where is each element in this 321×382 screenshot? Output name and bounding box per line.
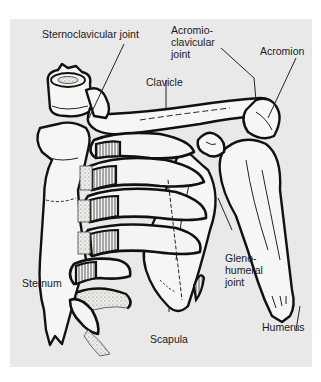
rib-cage [70,133,206,356]
label-sternoclavicular-joint: Sternoclavicular joint [42,28,139,40]
label-glenohumeral-line3: joint [225,276,263,288]
label-scapula: Scapula [150,333,188,345]
humerus-bone [220,140,294,322]
label-acromioclavicular-line2: clavicular [171,36,215,48]
label-acromioclavicular-joint: Acromio- clavicular joint [171,24,215,60]
coracoid-process [198,133,225,157]
label-acromioclavicular-line3: joint [171,48,215,60]
label-humerus: Humerus [262,321,305,333]
label-acromion: Acromion [260,45,304,57]
label-glenohumeral-line2: humeral [225,264,263,276]
label-sternum: Sternum [22,277,62,289]
label-glenohumeral-joint: Gleno- humeral joint [225,252,263,288]
label-glenohumeral-line1: Gleno- [225,252,263,264]
label-acromioclavicular-line1: Acromio- [171,24,215,36]
label-clavicle: Clavicle [146,76,183,88]
